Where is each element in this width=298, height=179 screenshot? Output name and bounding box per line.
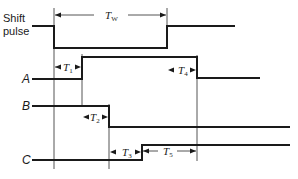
signal-c-label: C: [22, 153, 31, 167]
arrow-left-icon: [83, 115, 89, 120]
interval-t2-label: T2: [90, 111, 100, 125]
interval-tw-label: TW: [105, 9, 118, 23]
interval-t4-label: T4: [178, 64, 188, 78]
arrow-right-icon: [102, 115, 108, 120]
arrow-right-icon: [190, 68, 196, 73]
shift-pulse-waveform: [32, 26, 235, 48]
arrow-left-icon: [55, 13, 61, 18]
arrow-right-icon: [75, 65, 81, 70]
signal-b-label: B: [22, 99, 30, 113]
signal-a-label: A: [21, 72, 30, 86]
arrow-left-icon: [110, 150, 116, 155]
arrow-right-icon: [135, 150, 141, 155]
interval-t3-label: T3: [122, 146, 132, 160]
signal-b-waveform: [32, 106, 290, 127]
interval-t1-label: T1: [63, 61, 73, 75]
arrow-left-icon: [168, 68, 174, 73]
signal-c-waveform: [32, 145, 290, 160]
arrow-right-icon: [160, 13, 166, 18]
timing-diagram: Shift pulse A B C TW T1 T2 T3 T4 T5: [0, 0, 298, 179]
shift-label-line1: Shift: [3, 12, 25, 24]
shift-label-line2: pulse: [3, 25, 29, 37]
interval-t5-label: T5: [163, 145, 173, 159]
arrow-right-icon: [190, 149, 196, 154]
